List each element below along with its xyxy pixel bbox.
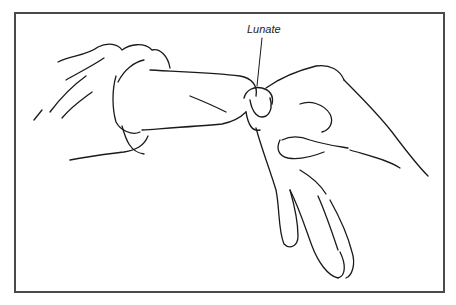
label-leader-line [257, 38, 262, 86]
hands-illustration [0, 0, 456, 305]
patient-forearm-drawing [142, 70, 256, 130]
patient-hand-drawing [256, 128, 354, 278]
lunate-label: Lunate [247, 23, 281, 35]
lunate-region-drawing [244, 87, 273, 130]
right-hand-drawing [266, 66, 428, 176]
left-hand-drawing [34, 44, 170, 160]
